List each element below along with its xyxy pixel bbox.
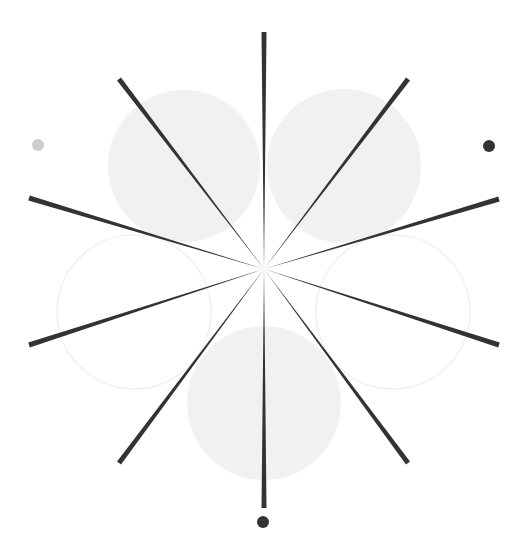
- spokes-group: [28, 32, 500, 508]
- spoke-top: [262, 32, 267, 269]
- radial-spoke-diagram: [0, 0, 529, 551]
- dot-right: [483, 140, 495, 152]
- diagram-canvas: [0, 0, 529, 551]
- circle-upper-right: [267, 89, 421, 243]
- dot-bottom: [257, 516, 269, 528]
- dot-left: [32, 139, 44, 151]
